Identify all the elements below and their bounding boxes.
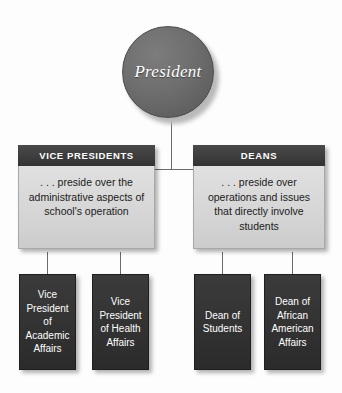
group-header-vice-presidents: VICE PRESIDENTS xyxy=(18,145,155,166)
president-label: President xyxy=(134,62,201,82)
node-label-vp-academic-affairs: Vice President of Academic Affairs xyxy=(22,288,73,356)
node-vp-health-affairs[interactable]: Vice President of Health Affairs xyxy=(92,274,149,370)
connector-child-dean-of-students xyxy=(222,252,223,274)
connector-child-vp-health-affairs xyxy=(120,252,121,274)
node-dean-of-students[interactable]: Dean of Students xyxy=(194,274,251,370)
node-label-dean-of-students: Dean of Students xyxy=(197,309,248,336)
connector-child-dean-african-american-affairs xyxy=(292,252,293,274)
group-vice-presidents[interactable]: VICE PRESIDENTS . . . preside over the a… xyxy=(18,145,155,249)
group-description-vice-presidents: . . . preside over the administrative as… xyxy=(18,166,155,249)
node-label-dean-african-american-affairs: Dean of African American Affairs xyxy=(267,295,318,349)
node-label-vp-health-affairs: Vice President of Health Affairs xyxy=(95,295,146,349)
node-vp-academic-affairs[interactable]: Vice President of Academic Affairs xyxy=(19,274,76,370)
node-dean-african-american-affairs[interactable]: Dean of African American Affairs xyxy=(264,274,321,370)
group-description-deans: . . . preside over operations and issues… xyxy=(193,166,325,249)
org-chart: President VICE PRESIDENTS . . . preside … xyxy=(0,0,342,393)
group-header-deans: DEANS xyxy=(193,145,325,166)
group-deans[interactable]: DEANS . . . preside over operations and … xyxy=(193,145,325,249)
president-circle: President xyxy=(122,26,214,118)
node-president[interactable]: President xyxy=(122,26,222,126)
connector-child-vp-academic-affairs xyxy=(47,252,48,274)
